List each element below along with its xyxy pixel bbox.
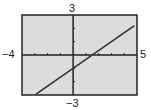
plot-area	[0, 0, 151, 110]
